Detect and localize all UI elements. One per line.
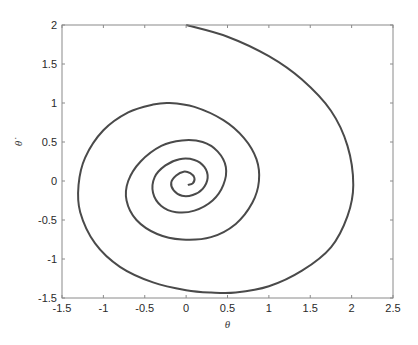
y-tick-label: 1.5 xyxy=(42,58,57,70)
y-tick-label: 1 xyxy=(51,97,57,109)
y-tick-label: 2 xyxy=(51,19,57,31)
y-tick-label: -0.5 xyxy=(38,214,57,226)
x-tick-label: -1 xyxy=(98,302,108,314)
y-tick-label: 0.5 xyxy=(42,136,57,148)
x-tick-label: 0.5 xyxy=(220,302,235,314)
phase-portrait-chart: -1.5-1-0.500.511.522.5 -1.5-1-0.500.511.… xyxy=(0,0,418,345)
x-tick-label: 2 xyxy=(349,302,355,314)
x-tick-label: 2.5 xyxy=(385,302,400,314)
y-tick-label: 0 xyxy=(51,175,57,187)
y-tick-label: -1.5 xyxy=(38,292,57,304)
x-tick-label: 1.5 xyxy=(303,302,318,314)
x-tick-label: 0 xyxy=(183,302,189,314)
y-tick-label: -1 xyxy=(47,253,57,265)
x-tick-label: -0.5 xyxy=(135,302,154,314)
x-tick-label: 1 xyxy=(266,302,272,314)
x-axis-label: θ xyxy=(225,318,231,330)
